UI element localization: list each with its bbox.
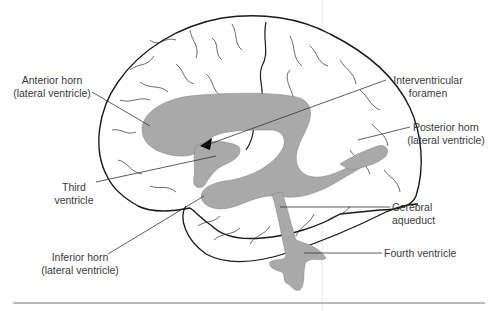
label-anterior-horn: Anterior horn (lateral ventricle) (10, 74, 94, 100)
label-fourth-ventricle-line1: Fourth ventricle (384, 247, 474, 260)
label-anterior-horn-line1: Anterior horn (10, 74, 94, 87)
label-interventricular-foramen-line1: Interventricular (386, 74, 470, 87)
label-anterior-horn-line2: (lateral ventricle) (10, 87, 94, 100)
label-posterior-horn-line1: Posterior horn (404, 121, 488, 134)
label-inferior-horn-line1: Inferior horn (38, 251, 122, 264)
label-interventricular-foramen-line2: foramen (386, 87, 470, 100)
label-cerebral-aqueduct: Cerebral aqueduct (392, 201, 452, 227)
label-inferior-horn: Inferior horn (lateral ventricle) (38, 251, 122, 277)
label-third-ventricle-line1: Third (52, 181, 96, 194)
label-third-ventricle: Third ventricle (52, 181, 96, 207)
label-cerebral-aqueduct-line2: aqueduct (392, 214, 452, 227)
label-posterior-horn: Posterior horn (lateral ventricle) (404, 121, 488, 147)
label-cerebral-aqueduct-line1: Cerebral (392, 201, 452, 214)
label-fourth-ventricle: Fourth ventricle (384, 247, 474, 260)
brain-ventricles-diagram: Anterior horn (lateral ventricle) Third … (0, 0, 495, 311)
label-third-ventricle-line2: ventricle (52, 194, 96, 207)
label-inferior-horn-line2: (lateral ventricle) (38, 264, 122, 277)
label-interventricular-foramen: Interventricular foramen (386, 74, 470, 100)
label-posterior-horn-line2: (lateral ventricle) (404, 134, 488, 147)
